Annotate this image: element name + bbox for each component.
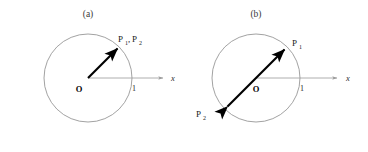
panel-b-caption: (b) — [250, 9, 261, 20]
point-label-p2-base-a: P — [132, 34, 137, 44]
point-label-p1-sub-b: 1 — [299, 44, 302, 50]
vector-op-a — [88, 49, 118, 79]
point-label-p1p2-a: P 1 , P 2 — [118, 34, 142, 46]
panel-a-caption: (a) — [83, 9, 94, 20]
tick-label-one-a: 1 — [132, 84, 136, 93]
panel-b: (b) O 1 x P 1 P 2 — [184, 0, 368, 152]
point-label-p1-base-a: P — [118, 34, 123, 44]
point-label-p2-base-b: P — [196, 109, 201, 119]
point-label-p2-b: P 2 — [196, 109, 206, 121]
origin-label-b: O — [253, 84, 260, 94]
point-label-separator-a: , — [128, 34, 130, 44]
point-label-p2-sub-b: 2 — [203, 115, 206, 121]
panel-a: (a) O 1 x P 1 , P 2 — [0, 0, 184, 152]
point-label-p2-sub-a: 2 — [139, 40, 142, 46]
tick-label-one-b: 1 — [300, 84, 304, 93]
x-axis-label-a: x — [170, 73, 175, 83]
x-axis-label-b: x — [345, 73, 350, 83]
origin-label-a: O — [76, 84, 83, 94]
point-label-p1-base-b: P — [292, 38, 297, 48]
figure-root: (a) O 1 x P 1 , P 2 (b) — [0, 0, 368, 152]
point-label-p1-b: P 1 — [292, 38, 302, 50]
